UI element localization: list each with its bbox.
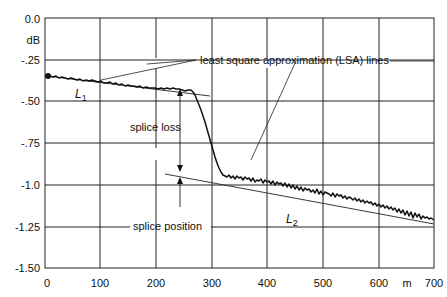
- lsa-leader-1: [101, 60, 196, 80]
- h-gridlines: [45, 60, 434, 227]
- x-tick: 0: [44, 277, 50, 289]
- splice-loss-arrows: [177, 89, 183, 207]
- x-tick: 100: [91, 277, 109, 289]
- y-tick: -.25: [21, 54, 40, 66]
- x-tick: 300: [203, 277, 221, 289]
- y-unit-label: dB: [27, 34, 40, 46]
- x-tick: 200: [147, 277, 165, 289]
- x-tick: 600: [370, 277, 388, 289]
- lsa-leader-3: [251, 61, 296, 160]
- arrow-up-icon: [177, 177, 183, 184]
- x-tick: 500: [314, 277, 332, 289]
- otdr-chart: 0.0 dB -.25 -.50 -.75 -1.0 -1.25 -1.50 0…: [0, 0, 447, 297]
- y-tick: -1.0: [21, 179, 40, 191]
- x-tick: 700: [425, 277, 443, 289]
- y-axis-labels: 0.0 dB -.25 -.50 -.75 -1.0 -1.25 -1.50: [15, 13, 40, 274]
- lsa-leader-2: [147, 60, 196, 64]
- x-tick: 400: [258, 277, 276, 289]
- y-tick: -.50: [21, 95, 40, 107]
- y-tick: -1.50: [15, 262, 40, 274]
- y-tick: 0.0: [25, 13, 40, 25]
- trace-start-marker: [45, 73, 51, 79]
- lsa-line-l1: [47, 76, 210, 96]
- l2-label: L2: [286, 212, 298, 228]
- lsa-line-l2: [165, 174, 434, 224]
- y-tick: -.75: [21, 137, 40, 149]
- lsa-annotation: least square approximation (LSA) lines: [200, 54, 389, 66]
- splice-loss-label: splice loss: [130, 121, 181, 133]
- otdr-trace: [47, 76, 434, 220]
- x-unit-label: m: [402, 277, 411, 289]
- x-axis-labels: 0 100 200 300 400 500 600 m 700: [44, 277, 443, 289]
- splice-position-label: splice position: [133, 220, 202, 232]
- l1-label: L1: [75, 87, 87, 103]
- arrow-down-icon: [177, 165, 183, 172]
- y-tick: -1.25: [15, 221, 40, 233]
